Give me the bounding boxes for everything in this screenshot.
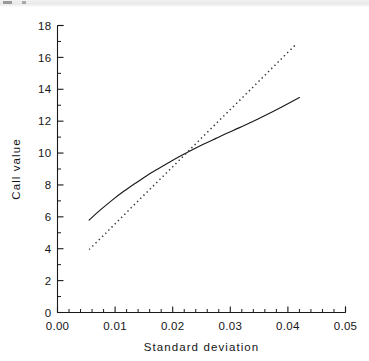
y-axis-tick-label: 14	[38, 83, 52, 95]
x-axis-title: Standard deviation	[144, 341, 260, 353]
y-axis-tick-label: 6	[45, 211, 52, 223]
y-axis-tick-label: 8	[45, 179, 52, 191]
y-axis-title: Call value	[10, 138, 22, 200]
x-axis-tick-label: 0.03	[219, 320, 243, 332]
line-chart: 0246810121416180.000.010.020.030.040.05S…	[0, 0, 369, 361]
x-axis-tick-label: 0.02	[161, 320, 185, 332]
y-axis-tick-label: 12	[38, 115, 51, 127]
axis-spines	[58, 26, 346, 313]
y-axis-tick-label: 4	[45, 243, 52, 255]
series-solid-curve	[89, 98, 299, 220]
y-axis-tick-label: 16	[38, 52, 51, 64]
chart-figure: 0246810121416180.000.010.020.030.040.05S…	[0, 0, 369, 361]
x-axis-tick-label: 0.01	[103, 320, 127, 332]
x-axis-tick-label: 0.00	[46, 320, 70, 332]
y-axis-tick-label: 18	[38, 20, 51, 32]
y-axis-tick-label: 0	[45, 307, 52, 319]
x-axis-tick-label: 0.05	[334, 320, 358, 332]
series-dotted-line	[89, 44, 296, 250]
x-axis-tick-label: 0.04	[276, 320, 300, 332]
y-axis-tick-label: 2	[45, 275, 52, 287]
y-axis-tick-label: 10	[38, 147, 51, 159]
